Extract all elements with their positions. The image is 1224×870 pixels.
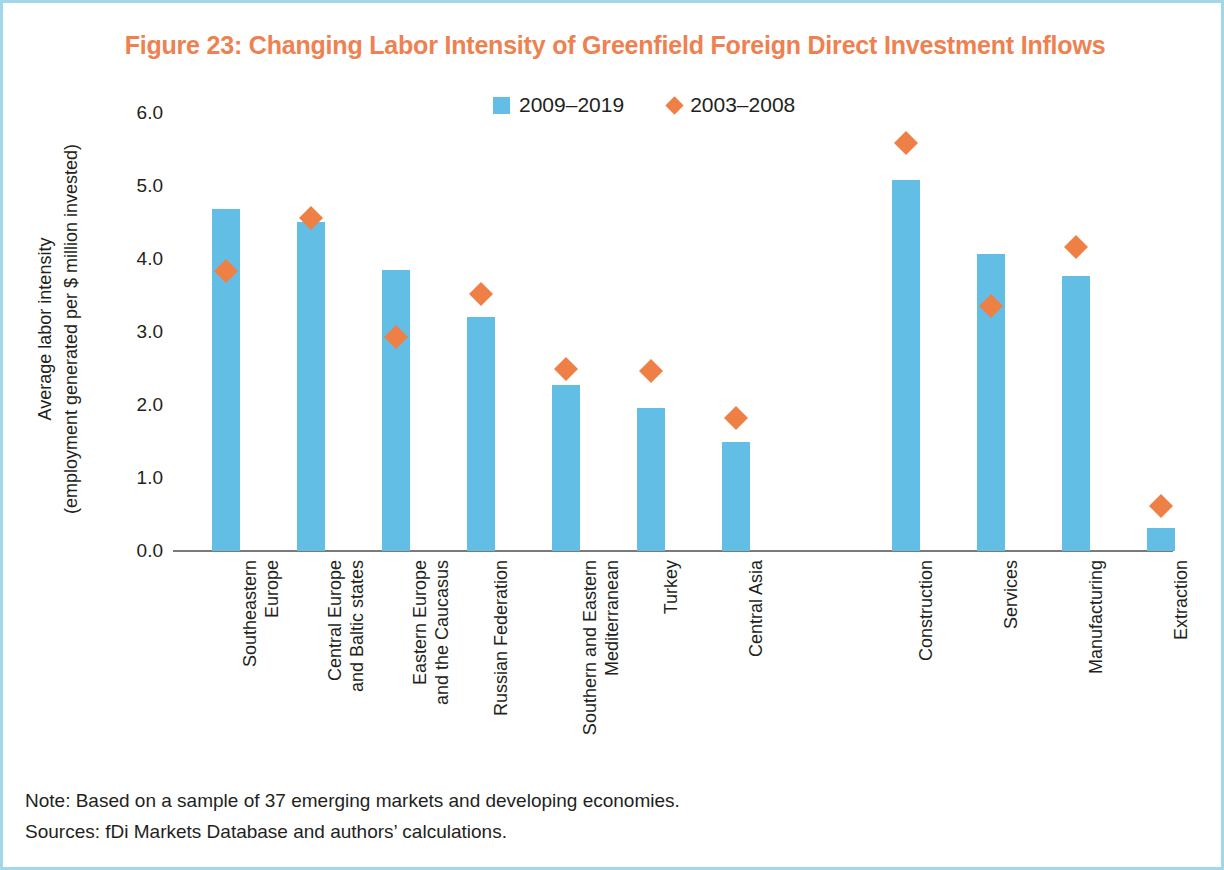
x-axis-label-line: Central Asia: [745, 560, 767, 760]
y-axis-tick-5-0: 5.0: [103, 175, 163, 197]
x-axis-label-line: and Baltic states: [346, 560, 368, 760]
x-axis-label-line: Manufacturing: [1085, 560, 1107, 760]
figure-frame: Figure 23: Changing Labor Intensity of G…: [0, 0, 1224, 870]
x-axis-label: Russian Federation: [490, 560, 512, 760]
data-point-marker: [1064, 235, 1088, 259]
data-point-marker: [1149, 494, 1173, 518]
y-axis-tick-1-0: 1.0: [103, 467, 163, 489]
y-axis-tick-6-0: 6.0: [103, 102, 163, 124]
x-axis-label: Eastern Europeand the Caucasus: [409, 560, 453, 760]
x-axis-label: Turkey: [660, 560, 682, 760]
bar: [467, 317, 495, 551]
x-axis-label: Southern and EasternMediterranean: [579, 560, 623, 760]
sources-text: Sources: fDi Markets Database and author…: [25, 816, 680, 847]
y-axis-title-line2: (employment generated per $ million inve…: [58, 94, 84, 564]
y-axis-tick-0-0: 0.0: [103, 540, 163, 562]
x-axis-label: Construction: [915, 560, 937, 760]
y-axis-tick-3-0: 3.0: [103, 321, 163, 343]
x-axis-label-line: Construction: [915, 560, 937, 760]
x-axis-label: Central Asia: [745, 560, 767, 760]
x-axis-label: SoutheasternEurope: [239, 560, 283, 760]
x-axis-label-line: Southeastern: [239, 560, 261, 760]
data-point-marker: [554, 357, 578, 381]
bar: [382, 270, 410, 551]
x-axis-label-line: Eastern Europe: [409, 560, 431, 760]
y-axis-title-line1: Average labor intensity: [32, 94, 58, 564]
bar: [297, 222, 325, 551]
bar: [892, 180, 920, 551]
x-axis-label-line: Mediterranean: [601, 560, 623, 760]
x-axis-label-line: Southern and Eastern: [579, 560, 601, 760]
data-point-marker: [724, 406, 748, 430]
data-point-marker: [639, 359, 663, 383]
figure-footnotes: Note: Based on a sample of 37 emerging m…: [25, 785, 680, 847]
y-axis-tick-2-0: 2.0: [103, 394, 163, 416]
bar: [637, 408, 665, 551]
x-axis-label-line: Russian Federation: [490, 560, 512, 760]
y-axis-title: Average labor intensity (employment gene…: [32, 94, 84, 564]
x-axis-label: Extraction: [1170, 560, 1192, 760]
x-axis-label-line: Central Europe: [324, 560, 346, 760]
x-axis-label: Central Europeand Baltic states: [324, 560, 368, 760]
bar: [722, 442, 750, 551]
bar: [1147, 528, 1175, 551]
x-axis-label-line: and the Caucasus: [431, 560, 453, 760]
bar: [1062, 276, 1090, 551]
x-axis-label: Services: [1000, 560, 1022, 760]
x-axis-label: Manufacturing: [1085, 560, 1107, 760]
x-axis-label-line: Services: [1000, 560, 1022, 760]
x-axis-label-line: Turkey: [660, 560, 682, 760]
y-axis-tick-4-0: 4.0: [103, 248, 163, 270]
x-axis-label-line: Europe: [261, 560, 283, 760]
note-text: Note: Based on a sample of 37 emerging m…: [25, 785, 680, 816]
data-point-marker: [469, 282, 493, 306]
bar: [552, 385, 580, 551]
x-axis-label-line: Extraction: [1170, 560, 1192, 760]
chart-plot-area: Average labor intensity (employment gene…: [3, 3, 1224, 870]
data-point-marker: [894, 131, 918, 155]
